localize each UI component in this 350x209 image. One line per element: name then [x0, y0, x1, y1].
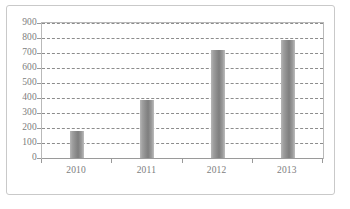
y-axis-tick-label: 600 — [9, 63, 37, 73]
y-axis-tick-label: 100 — [9, 138, 37, 148]
x-axis-tick-label: 2013 — [252, 166, 322, 176]
bar — [211, 50, 225, 158]
bar — [70, 131, 84, 158]
chart-frame: 0100200300400500600700800900 20102011201… — [6, 5, 335, 195]
bar — [140, 100, 154, 159]
y-axis-tick-label: 900 — [9, 18, 37, 28]
y-axis-tick-label: 400 — [9, 93, 37, 103]
plot-area — [41, 22, 324, 159]
x-axis-tick-label: 2010 — [41, 166, 111, 176]
x-axis-tick-label: 2012 — [182, 166, 252, 176]
x-axis-tick-labels: 2010201120122013 — [41, 162, 324, 182]
y-axis-tick-labels: 0100200300400500600700800900 — [7, 22, 37, 159]
x-axis-tick-label: 2011 — [111, 166, 181, 176]
plot-inner — [42, 23, 323, 158]
y-axis-tick-label: 200 — [9, 123, 37, 133]
y-axis-tick-label: 500 — [9, 78, 37, 88]
gridline — [42, 23, 323, 24]
y-axis-tick-label: 800 — [9, 33, 37, 43]
y-axis-tick-label: 700 — [9, 48, 37, 58]
y-axis-tick-label: 0 — [9, 153, 37, 163]
bar — [281, 40, 295, 159]
y-axis-tick-label: 300 — [9, 108, 37, 118]
